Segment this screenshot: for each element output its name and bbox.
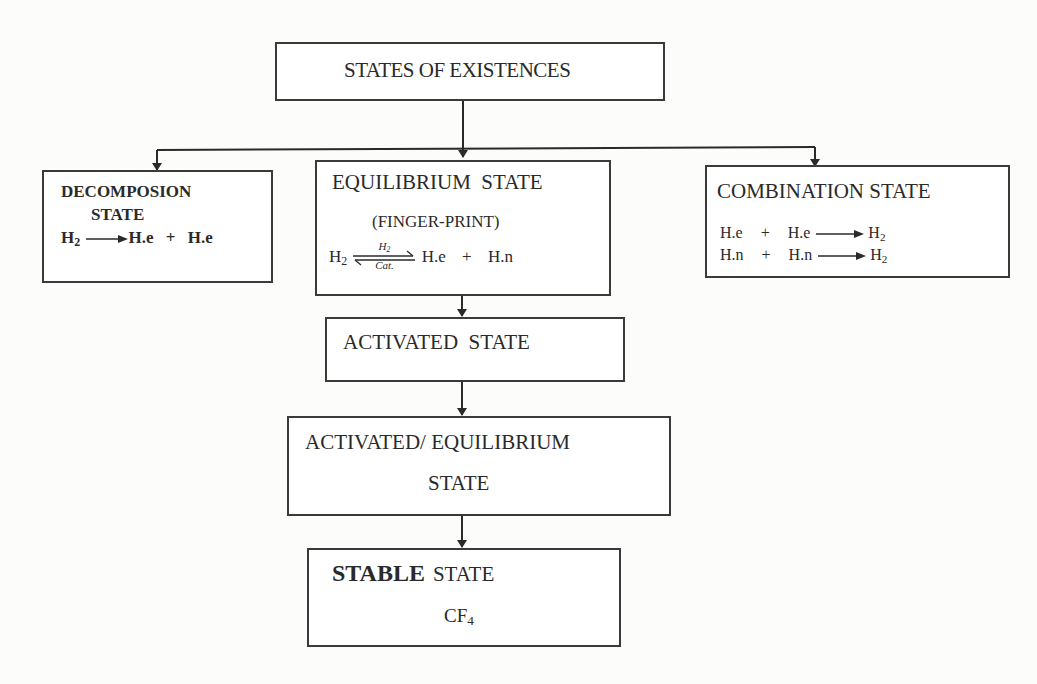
eq-product: H — [870, 246, 882, 263]
root-box: STATES OF EXISTENCES — [275, 42, 665, 101]
activated-equilibrium-line1: ACTIVATED/ EQUILIBRIUM — [305, 430, 570, 455]
equilibrium-title: EQUILIBRIUM STATE — [332, 170, 543, 195]
equilibrium-box: EQUILIBRIUM STATE (FINGER-PRINT) H2 H2 C… — [315, 160, 611, 296]
right-arrow-icon — [86, 234, 128, 244]
combination-equation-2: H.n + H.n H2 — [720, 246, 887, 264]
eq-product1: H.e — [128, 228, 153, 247]
decomposition-title-line2: STATE — [91, 205, 144, 225]
decomposition-box: DECOMPOSION STATE H2 H.e + H.e — [42, 170, 273, 283]
connector-horizontal-bus — [157, 147, 815, 150]
eq-reactant: H — [61, 228, 74, 247]
eq-product: H — [868, 224, 880, 241]
eq-b: H.e — [788, 224, 811, 241]
activated-label: ACTIVATED STATE — [343, 330, 530, 355]
right-arrow-icon — [816, 251, 866, 261]
eq-product-sub: 2 — [880, 231, 886, 243]
eq-product-sub: 2 — [882, 253, 888, 265]
activated-box: ACTIVATED STATE — [325, 317, 625, 382]
stable-box: STABLESTATE CF4 — [307, 548, 621, 647]
eq-product1: H.e — [422, 247, 446, 266]
stable-formula: CF4 — [444, 605, 474, 627]
eq-product2: H.n — [488, 247, 513, 266]
equilibrium-arrow-icon: H2 Cat. — [351, 244, 417, 272]
activated-equilibrium-box: ACTIVATED/ EQUILIBRIUM STATE — [287, 416, 671, 516]
combination-title: COMBINATION STATE — [717, 179, 931, 204]
activated-equilibrium-line2: STATE — [428, 471, 489, 496]
eq-b: H.n — [789, 246, 813, 263]
eq-a: H.e — [720, 224, 743, 241]
eq-plus: + — [761, 224, 770, 241]
decomposition-title-line1: DECOMPOSION — [61, 182, 191, 202]
stable-title: STABLESTATE — [332, 560, 494, 587]
equilibrium-subtitle: (FINGER-PRINT) — [372, 212, 500, 232]
eq-plus: + — [462, 247, 472, 266]
stable-label-rest: STATE — [433, 562, 494, 586]
eq-reactant-sub: 2 — [74, 235, 80, 249]
eq-reactant-sub: 2 — [341, 254, 347, 268]
stable-bold-label: STABLE — [332, 560, 425, 586]
eq-plus: + — [166, 228, 176, 247]
eq-product2: H.e — [188, 228, 213, 247]
root-label: STATES OF EXISTENCES — [344, 58, 570, 83]
arrow-bottom-label: Cat. — [351, 259, 417, 271]
decomposition-equation: H2 H.e + H.e — [61, 228, 213, 248]
eq-reactant: H — [329, 247, 341, 266]
eq-a: H.n — [720, 246, 744, 263]
right-arrow-icon — [814, 229, 864, 239]
eq-plus: + — [762, 246, 771, 263]
combination-box: COMBINATION STATE H.e + H.e H2 H.n + H.n… — [705, 165, 1010, 278]
combination-equation-1: H.e + H.e H2 — [720, 224, 886, 242]
equilibrium-equation: H2 H2 Cat. H.e + H.n — [329, 244, 513, 272]
